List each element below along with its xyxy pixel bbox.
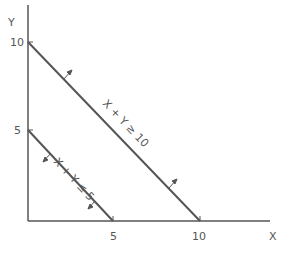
constraint-line-ge10 — [28, 42, 200, 221]
arrow-icon — [64, 70, 177, 188]
x-tick-label-10: 10 — [192, 230, 206, 243]
constraint-label-le5: X + Y ≤ 5 — [51, 155, 97, 203]
y-tick-label-5: 5 — [14, 124, 21, 137]
x-tick-label-5: 5 — [110, 230, 117, 243]
x-axis-label: X — [269, 230, 277, 243]
y-tick-label-10: 10 — [10, 36, 24, 49]
constraint-diagram: 10 5 5 10 Y X X + Y ≥ 10 X + Y ≤ 5 — [0, 0, 302, 256]
y-axis-label: Y — [7, 16, 15, 29]
